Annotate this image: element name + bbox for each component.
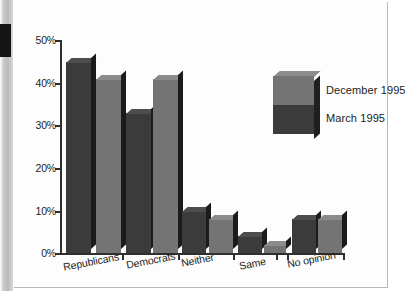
bar-democrats-december-1995 xyxy=(153,79,178,253)
bar-republicans-march-1995 xyxy=(66,62,91,253)
chart-container: 50% 40% 30% 20% 10% 0% xyxy=(14,2,388,288)
bar-neither-december-1995 xyxy=(209,219,233,253)
bar-front-face xyxy=(182,211,206,253)
legend-swatch-side-face xyxy=(314,76,320,139)
bar-neither-march-1995 xyxy=(182,211,206,253)
x-axis-tick xyxy=(122,253,124,260)
y-axis-label-0: 0% xyxy=(16,247,56,259)
x-axis-tick xyxy=(343,253,345,260)
legend-swatch-december-1995-color xyxy=(273,76,314,105)
scan-black-mark-artifact xyxy=(0,24,11,57)
bar-democrats-march-1995 xyxy=(126,113,151,253)
x-axis-category-same: Same xyxy=(238,255,267,272)
legend-swatch-march-1995-color xyxy=(273,105,314,134)
legend-swatch-block xyxy=(273,76,314,134)
y-axis-label-40: 40% xyxy=(16,77,56,89)
bar-same-december-1995 xyxy=(264,245,286,253)
bar-front-face xyxy=(209,219,233,253)
bar-no-opinion-march-1995 xyxy=(292,219,316,253)
bar-no-opinion-december-1995 xyxy=(318,219,342,253)
bar-side-face xyxy=(286,236,291,249)
bar-front-face xyxy=(264,245,286,253)
legend-label-december-1995: December 1995 xyxy=(326,84,406,96)
y-axis-line xyxy=(60,40,62,255)
scan-edge-artifact-bottom xyxy=(0,291,408,303)
bar-front-face xyxy=(238,236,262,253)
bar-front-face xyxy=(292,219,316,253)
bar-republicans-december-1995 xyxy=(96,79,121,253)
bar-front-face xyxy=(126,113,151,253)
plot-area: 50% 40% 30% 20% 10% 0% xyxy=(14,2,388,288)
bar-front-face xyxy=(153,79,178,253)
bar-front-face xyxy=(66,62,91,253)
y-axis-label-30: 30% xyxy=(16,119,56,131)
y-axis-label-10: 10% xyxy=(16,205,56,217)
bar-front-face xyxy=(96,79,121,253)
y-axis-label-50: 50% xyxy=(16,34,56,46)
x-axis-tick xyxy=(233,253,235,260)
x-axis-tick xyxy=(276,253,278,260)
bar-side-face xyxy=(342,210,347,249)
bar-front-face xyxy=(318,219,342,253)
bar-same-march-1995 xyxy=(238,236,262,253)
y-axis-label-20: 20% xyxy=(16,162,56,174)
legend-label-march-1995: March 1995 xyxy=(326,112,385,124)
